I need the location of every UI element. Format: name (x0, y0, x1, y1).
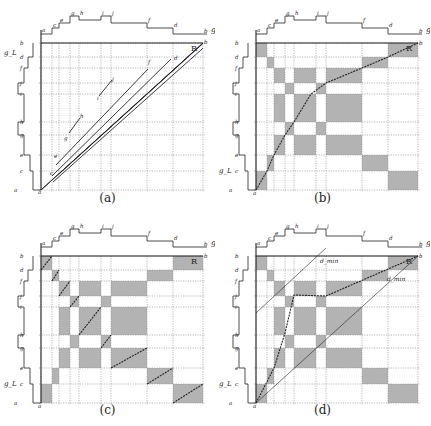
shaded-cell (294, 281, 316, 296)
left-letter-b: b (20, 253, 24, 259)
shaded-cell (294, 307, 316, 335)
label-gL: g_L (219, 167, 232, 175)
top-letter-d: d (174, 235, 178, 241)
label-dmin-upper: d_min (320, 257, 338, 265)
top-letter-h: h (295, 223, 299, 229)
shaded-cell (274, 94, 285, 122)
label-gL: g_L (4, 49, 17, 57)
shaded-cell (173, 256, 203, 270)
top-letter-e: e (60, 230, 64, 236)
top-letter-b: b (204, 28, 208, 34)
shaded-cell (101, 296, 111, 307)
left-letter-g: g (235, 132, 239, 139)
left-letter-d: d (235, 267, 239, 273)
top-letter-g: g (286, 10, 290, 17)
left-letter-g: g (20, 345, 24, 352)
left-letter-c: c (235, 381, 238, 387)
left-letter-h: h (235, 332, 239, 338)
label-gL: g_L (4, 380, 17, 388)
shaded-cell (316, 335, 326, 348)
shaded-cell (59, 307, 70, 335)
segment-gh (69, 118, 80, 133)
shaded-cell (316, 122, 326, 135)
panel-c: aceghijfdbaceghijfdbg_RRg_Lab (c) (0, 213, 215, 426)
top-letter-a: a (42, 240, 45, 246)
top-letter-c: c (53, 22, 56, 28)
shaded-cell (274, 281, 285, 296)
top-letter-c: c (268, 235, 271, 241)
diagram-d: aceghijfdbaceghijfdbg_RRg_Ld_mind_minab (215, 213, 430, 426)
left-letter-b: b (235, 40, 239, 46)
diag-letter-c: c (50, 170, 53, 176)
left-letter-b: b (20, 40, 24, 46)
shaded-cell (256, 43, 267, 57)
top-letter-b: b (419, 28, 423, 34)
shaded-cell (326, 348, 362, 368)
top-letter-a: a (257, 27, 260, 33)
shaded-cell (256, 256, 267, 270)
left-letter-g: g (235, 345, 239, 352)
top-letter-b: b (419, 241, 423, 247)
shaded-cell (362, 155, 388, 171)
label-gL: g_L (219, 380, 232, 388)
top-profile-gR (41, 229, 207, 247)
top-letter-e: e (275, 230, 279, 236)
shaded-cell (285, 335, 294, 348)
shaded-cell (326, 135, 362, 155)
left-letter-b: b (235, 253, 239, 259)
top-letter-j: j (111, 223, 114, 230)
left-letter-e: e (20, 365, 24, 371)
shaded-cell (362, 368, 388, 384)
caption-c: (c) (0, 403, 215, 417)
top-letter-g: g (286, 223, 290, 230)
diag-letter-h: h (80, 113, 84, 119)
shaded-cell (274, 68, 285, 83)
shaded-cell (274, 307, 285, 335)
top-letter-d: d (389, 22, 393, 28)
top-letter-f: f (362, 17, 366, 24)
shaded-cell (388, 256, 418, 270)
shaded-cell (52, 368, 59, 384)
corner-letter-b: b (204, 39, 208, 45)
left-letter-c: c (20, 168, 23, 174)
top-letter-i: i (317, 10, 319, 16)
left-letter-f: f (19, 65, 23, 72)
left-letter-h: h (20, 332, 24, 338)
top-letter-j: j (326, 223, 329, 230)
shaded-cell (294, 94, 316, 122)
top-profile-gR (256, 229, 422, 247)
left-letter-d: d (20, 267, 24, 273)
diagram-c: aceghijfdbaceghijfdbg_RRg_Lab (0, 213, 215, 426)
caption-b: (b) (215, 191, 430, 205)
left-letter-j: j (234, 80, 237, 87)
top-letter-i: i (102, 223, 104, 229)
shaded-cell (41, 384, 52, 403)
left-letter-d: d (20, 54, 24, 60)
left-letter-c: c (20, 381, 23, 387)
label-dmin-lower: d_min (387, 275, 405, 283)
top-letter-i: i (102, 10, 104, 16)
diag-letter-d: d (174, 55, 178, 61)
left-letter-i: i (20, 304, 22, 310)
diag-letter-e: e (54, 153, 58, 159)
shaded-cell (316, 296, 326, 307)
shaded-cell (294, 135, 316, 155)
shaded-cell (326, 94, 362, 122)
diag-letter-j: j (111, 76, 114, 83)
shaded-cell (70, 335, 79, 348)
left-letter-e: e (20, 152, 24, 158)
panel-b: aceghijfdbaceghijfdbg_RRg_Lab (b) (215, 0, 430, 213)
top-letter-a: a (257, 240, 260, 246)
shaded-cell (294, 348, 316, 368)
shaded-cell (59, 348, 70, 368)
panel-d: aceghijfdbaceghijfdbg_RRg_Ld_mind_minab … (215, 213, 430, 426)
diag-letter-i: i (97, 95, 99, 101)
left-letter-c: c (235, 168, 238, 174)
top-letter-c: c (268, 22, 271, 28)
diagram-a: aceghijfdbaceghijfdbg_RRg_Lghijfdecab (0, 0, 215, 213)
left-letter-g: g (20, 132, 24, 139)
top-letter-h: h (295, 10, 299, 16)
top-letter-d: d (389, 235, 393, 241)
top-letter-g: g (71, 10, 75, 17)
top-profile-gR (256, 16, 422, 34)
